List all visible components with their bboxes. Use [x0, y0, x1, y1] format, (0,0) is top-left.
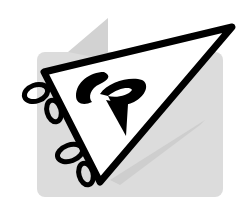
cp-pennant-logo-icon — [0, 0, 247, 209]
